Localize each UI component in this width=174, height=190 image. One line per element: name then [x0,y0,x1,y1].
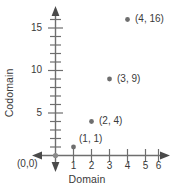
y-axis-title: Codomain [3,53,15,133]
data-point-2-4 [89,119,94,124]
scatter-chart: 15 10 5 1 2 3 4 5 6 (4, 16) (3, 9) (2, 4… [0,0,174,190]
y-tick-label-5: 5 [22,107,42,118]
y-axis-top-arrow-icon [52,6,60,16]
data-point-3-9 [107,77,112,82]
x-tick-label-2: 2 [84,160,100,171]
data-point-4-16 [125,17,130,22]
data-point-1-1 [71,145,76,150]
origin-label: (0,0) [17,158,38,169]
x-tick-label-6: 6 [151,160,167,171]
x-tick-label-4: 4 [120,160,136,171]
data-point-label-3-9: (3, 9) [117,73,140,84]
data-point-label-1-1: (1, 1) [79,133,102,144]
data-point-label-2-4: (2, 4) [99,115,122,126]
y-axis-bottom-arrow-icon [52,162,60,172]
origin-point-marker [53,153,58,158]
y-tick-label-10: 10 [22,64,42,75]
x-tick-label-3: 3 [102,160,118,171]
x-axis-title: Domain [0,173,174,185]
y-tick-label-15: 15 [22,22,42,33]
x-axis-right-arrow-icon [160,152,170,160]
data-point-label-4-16: (4, 16) [135,13,164,24]
x-tick-label-1: 1 [66,160,82,171]
